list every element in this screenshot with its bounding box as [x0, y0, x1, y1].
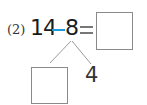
- decomposition-right-value: 4: [85, 64, 98, 86]
- decomposition-left-box[interactable]: [31, 67, 68, 104]
- decomposition-branch-lines: [0, 0, 147, 105]
